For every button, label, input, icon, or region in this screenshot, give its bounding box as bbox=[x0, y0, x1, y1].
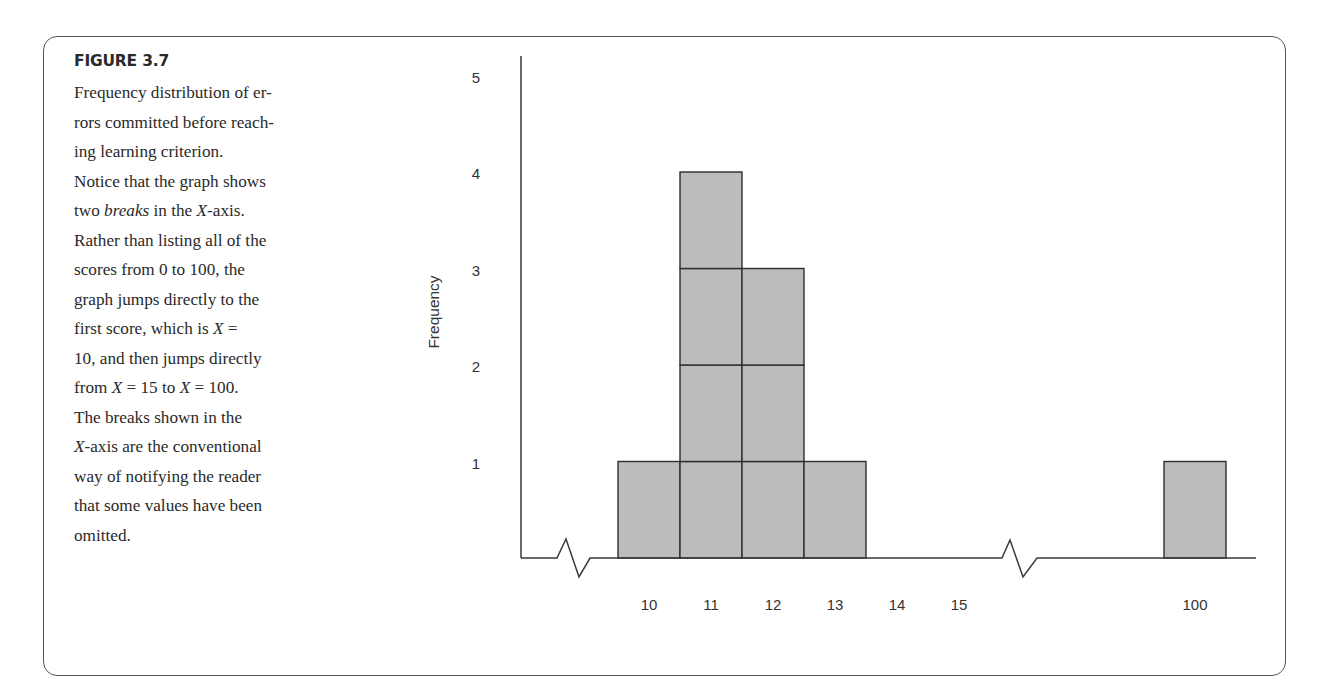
x-tick-label: 15 bbox=[951, 596, 968, 613]
bar-block-100 bbox=[1164, 462, 1226, 559]
y-tick-label: 1 bbox=[472, 455, 480, 472]
bar-block-11 bbox=[680, 269, 742, 366]
bar-block-13 bbox=[804, 462, 866, 559]
y-tick-label: 3 bbox=[472, 262, 480, 279]
bar-block-12 bbox=[742, 365, 804, 462]
x-tick-label: 13 bbox=[827, 596, 844, 613]
x-tick-label: 100 bbox=[1182, 596, 1207, 613]
x-tick-labels: 101112131415100 bbox=[641, 596, 1208, 613]
x-tick-label: 14 bbox=[889, 596, 906, 613]
bar-block-11 bbox=[680, 172, 742, 269]
bar-block-11 bbox=[680, 365, 742, 462]
y-tick-label: 4 bbox=[472, 165, 480, 182]
y-tick-label: 5 bbox=[472, 69, 480, 86]
bar-block-10 bbox=[618, 462, 680, 559]
x-tick-label: 12 bbox=[765, 596, 782, 613]
bar-block-11 bbox=[680, 462, 742, 559]
x-tick-label: 10 bbox=[641, 596, 658, 613]
bars-group bbox=[618, 172, 1226, 558]
y-tick-label: 2 bbox=[472, 358, 480, 375]
y-axis-label: Frequency bbox=[425, 275, 442, 348]
bar-block-12 bbox=[742, 269, 804, 366]
y-tick-labels: 12345 bbox=[472, 69, 480, 472]
bar-block-12 bbox=[742, 462, 804, 559]
x-tick-label: 11 bbox=[703, 596, 719, 613]
